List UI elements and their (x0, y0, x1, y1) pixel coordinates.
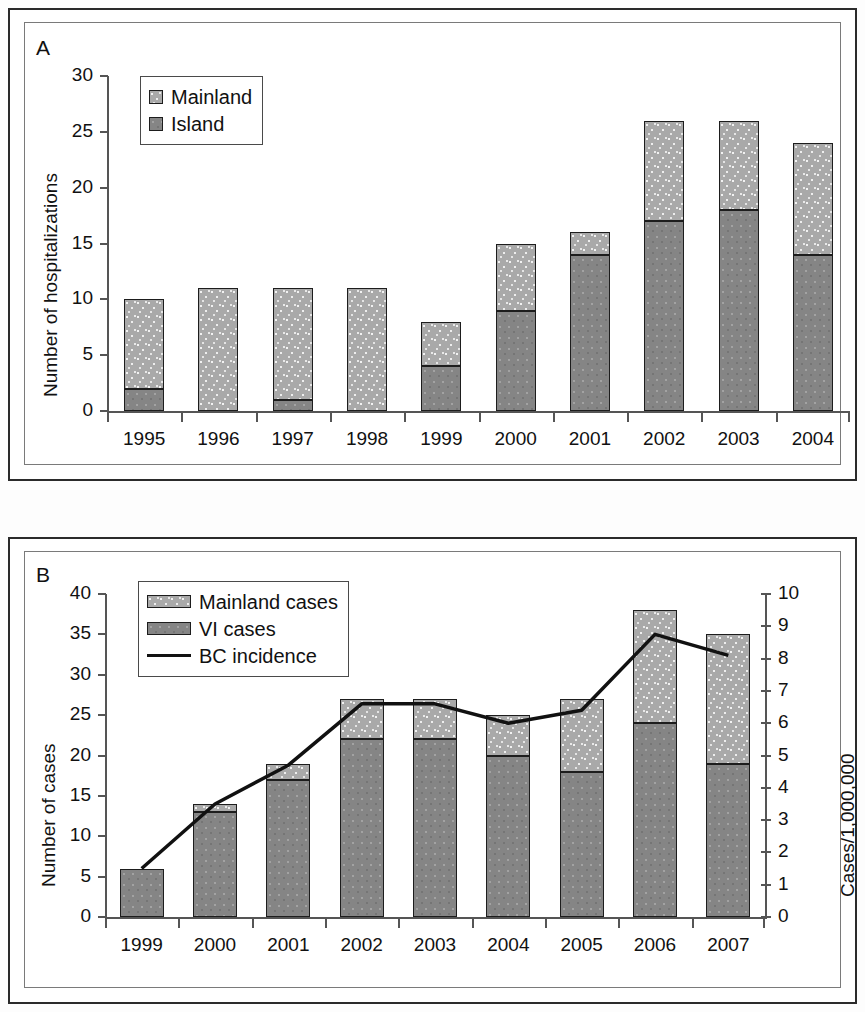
panel-b-bar-segment-vi (706, 764, 750, 917)
panel-b-y-tick-left (98, 593, 106, 595)
panel-b-x-tick-label: 2002 (322, 934, 402, 956)
panel-a-bar-segment-mainland (719, 121, 759, 210)
panel-b-y-tick-label-right: 2 (778, 840, 818, 862)
panel-b-x-tick (398, 919, 400, 928)
panel-b-bar-segment-mainland (340, 699, 384, 739)
panel-a-bar (273, 288, 313, 411)
panel-b-y-tick-label-right: 1 (778, 873, 818, 895)
panel-b-x-tick (545, 919, 547, 928)
panel-a-y-tick (100, 131, 108, 133)
panel-a-y-tick (100, 354, 108, 356)
panel-b-bar (633, 610, 677, 917)
legend-item-vi-cases: VI cases (147, 615, 338, 642)
panel-a-x-tick-label: 1995 (104, 428, 184, 450)
panel-a-x-tick-label: 2004 (773, 428, 853, 450)
panel-a-bar-segment-mainland (347, 288, 387, 411)
panel-b-bar (413, 699, 457, 917)
panel-b-bar-segment-vi (340, 739, 384, 917)
panel-b-bar-segment-mainland (193, 804, 237, 812)
panel-b-y-tick-label-left: 40 (33, 582, 91, 604)
legend-label: BC incidence (199, 646, 317, 666)
panel-a: A 05101520253019951996199719981999200020… (8, 8, 857, 481)
panel-b-x-tick-label: 2001 (248, 934, 328, 956)
panel-b-y-tick-right (761, 819, 771, 821)
panel-a-bar (719, 121, 759, 411)
panel-a-y-tick-label: 30 (35, 64, 93, 86)
panel-b-y-tick-label-left: 0 (33, 905, 91, 927)
legend-color-swatch (149, 90, 163, 104)
panel-b-bar-segment-vi (413, 739, 457, 917)
panel-b-x-tick-label: 1999 (102, 934, 182, 956)
panel-b-y-tick-label-right: 3 (778, 808, 818, 830)
panel-b-x-tick-label: 2000 (175, 934, 255, 956)
panel-b-x-tick-label: 2006 (615, 934, 695, 956)
panel-a-bar (198, 288, 238, 411)
legend-item-island: Island (149, 110, 252, 137)
panel-b-y-tick-label-right: 6 (778, 711, 818, 733)
panel-b: B 05101520253035400123456789101999200020… (8, 537, 857, 1004)
panel-a-bar-segment-mainland (793, 143, 833, 255)
panel-a-bar-segment-island (421, 366, 461, 411)
legend-label: Mainland (171, 87, 252, 107)
legend-line-swatch (147, 654, 191, 657)
legend-item-mainland-cases: Mainland cases (147, 588, 338, 615)
panel-b-bar-segment-vi (633, 723, 677, 917)
panel-a-bar (124, 299, 164, 411)
panel-a-bar-segment-mainland (570, 232, 610, 254)
panel-b-y-tick-label-left: 30 (33, 663, 91, 685)
panel-a-x-tick (404, 413, 406, 422)
panel-a-x-tick (848, 413, 850, 422)
legend-item-mainland: Mainland (149, 83, 252, 110)
panel-a-bar-segment-mainland (124, 299, 164, 388)
panel-b-y-axis-title-right: Cases/1,000,000 (837, 753, 859, 897)
legend-label: Mainland cases (199, 592, 338, 612)
panel-a-bar (570, 232, 610, 411)
panel-a-y-tick (100, 298, 108, 300)
panel-b-y-tick-left (98, 916, 106, 918)
panel-b-x-tick-label: 2003 (395, 934, 475, 956)
panel-a-x-tick-label: 1997 (253, 428, 333, 450)
legend-color-swatch (147, 595, 191, 608)
panel-a-y-tick (100, 243, 108, 245)
panel-b-y-tick-label-left: 35 (33, 622, 91, 644)
panel-b-bar-segment-mainland (413, 699, 457, 739)
panel-a-bar-segment-island (570, 255, 610, 411)
panel-a-bar (793, 143, 833, 411)
panel-a-bar-segment-mainland (421, 322, 461, 367)
panel-a-bar (347, 288, 387, 411)
panel-b-x-axis (105, 917, 767, 919)
panel-a-y-tick-label: 25 (35, 120, 93, 142)
panel-b-y-tick-left (98, 795, 106, 797)
panel-a-x-tick (256, 413, 258, 422)
panel-b-y-tick-right (761, 884, 771, 886)
panel-b-y-tick-right (761, 658, 771, 660)
panel-a-bar-segment-mainland (496, 244, 536, 311)
panel-b-x-tick-label: 2005 (542, 934, 622, 956)
panel-a-y-axis-title: Number of hospitalizations (40, 173, 62, 397)
panel-a-y-tick (100, 187, 108, 189)
panel-b-x-tick (763, 919, 765, 928)
panel-b-y-tick-label-right: 8 (778, 647, 818, 669)
panel-a-x-tick-label: 1996 (178, 428, 258, 450)
panel-a-x-tick-label: 1998 (327, 428, 407, 450)
legend-label: VI cases (199, 619, 276, 639)
panel-b-bar (193, 804, 237, 917)
panel-a-y-tick-label: 0 (35, 399, 93, 421)
panel-b-bar-segment-mainland (266, 764, 310, 780)
panel-a-bar-segment-island (124, 389, 164, 411)
panel-a-x-tick (776, 413, 778, 422)
panel-b-bar (560, 699, 604, 917)
panel-a-plot: 0510152025301995199619971998199920002001… (10, 10, 859, 483)
panel-b-x-tick (105, 919, 107, 928)
panel-a-bar (496, 244, 536, 412)
legend-color-swatch (147, 622, 191, 635)
panel-b-bar-segment-vi (266, 780, 310, 917)
panel-b-y-tick-right (761, 851, 771, 853)
panel-a-x-tick (627, 413, 629, 422)
panel-b-bar-segment-mainland (486, 715, 530, 755)
panel-b-y-tick-left (98, 714, 106, 716)
panel-b-y-tick-right (761, 916, 771, 918)
panel-a-x-tick (479, 413, 481, 422)
panel-b-y-tick-left (98, 674, 106, 676)
panel-a-bar-segment-mainland (644, 121, 684, 222)
